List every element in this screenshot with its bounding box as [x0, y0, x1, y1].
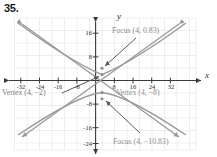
y-tick-label: -16	[75, 124, 92, 131]
leader-focus-upper	[105, 38, 136, 66]
x-axis-label: x	[205, 70, 209, 80]
x-tick-label: -16	[49, 83, 67, 90]
x-tick-label: 32	[163, 83, 179, 90]
vertex-left-label: Vertex (4, −2)	[2, 88, 46, 97]
y-axis	[93, 22, 99, 154]
vertex-lower-point	[101, 91, 104, 94]
y-tick-label: 8	[80, 53, 92, 60]
y-tick-label: -8	[77, 100, 92, 107]
y-tick-label: 16	[80, 29, 92, 36]
vertex-right-label: Vertex (4, −8)	[116, 88, 160, 97]
coordinate-plot	[0, 0, 217, 157]
focus-upper-point	[101, 67, 104, 70]
figure-container: 35.	[0, 0, 217, 157]
x-tick-label: -8	[68, 83, 86, 90]
y-axis-label: y	[117, 11, 121, 21]
focus-upper-label: Focus (4, 0.83)	[112, 26, 159, 35]
focus-lower-point	[101, 97, 104, 100]
y-tick-label: -24	[75, 140, 92, 147]
vertex-upper-point	[101, 73, 104, 76]
focus-lower-label: Focus (4, −10.83)	[113, 137, 169, 146]
